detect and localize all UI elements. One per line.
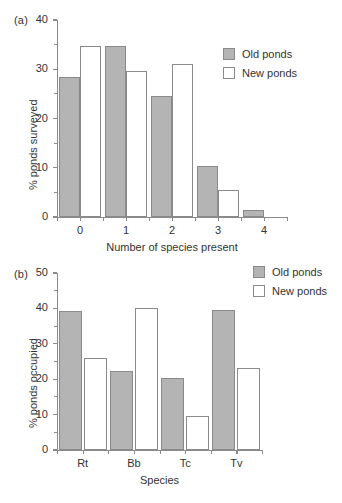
bar — [59, 77, 80, 217]
x-tick-label: Bb — [109, 457, 159, 469]
x-axis-title: Species — [50, 474, 270, 486]
legend-swatch-new-icon — [223, 67, 235, 79]
y-minor-tick — [54, 396, 57, 397]
x-tick — [241, 217, 242, 221]
legend-swatch-new-icon — [253, 285, 265, 297]
x-tick-label: 2 — [147, 224, 197, 236]
bar — [80, 46, 101, 217]
legend-label-old: Old ponds — [272, 266, 322, 278]
y-tick — [53, 118, 57, 119]
legend-item-new-ponds: New ponds — [253, 285, 327, 297]
legend-label-old: Old ponds — [242, 48, 292, 60]
x-tick — [160, 450, 161, 454]
x-tick — [83, 450, 84, 454]
x-tick — [211, 450, 212, 454]
x-tick-label: Tv — [211, 457, 261, 469]
bar — [237, 368, 260, 450]
x-tick — [80, 217, 81, 221]
legend-a: Old ponds New ponds — [223, 48, 297, 86]
x-tick — [108, 450, 109, 454]
legend-item-old-ponds: Old ponds — [223, 48, 297, 60]
legend-label-new: New ponds — [272, 285, 327, 297]
bar — [243, 210, 264, 217]
legend-label-new: New ponds — [242, 67, 297, 79]
y-axis-title: % ponds occupied — [27, 338, 39, 428]
y-minor-tick — [54, 143, 57, 144]
bar — [59, 311, 82, 450]
y-tick-label: 30 — [22, 62, 48, 74]
x-tick-label: 3 — [193, 224, 243, 236]
x-tick — [262, 450, 263, 454]
y-tick-label: 40 — [22, 301, 48, 313]
y-tick-label: 50 — [22, 266, 48, 278]
x-tick-label: 4 — [239, 224, 289, 236]
bar — [172, 64, 193, 217]
y-minor-tick — [54, 44, 57, 45]
legend-item-old-ponds: Old ponds — [253, 266, 327, 278]
y-minor-tick — [54, 192, 57, 193]
x-tick-label: Tc — [160, 457, 210, 469]
x-tick — [236, 450, 237, 454]
bar — [84, 358, 107, 450]
bar — [212, 310, 235, 450]
plot-area-b: 01020304050% ponds occupiedRtBbTcTvSpeci… — [57, 273, 262, 450]
chart-panel-b: (b) 01020304050% ponds occupiedRtBbTcTvS… — [0, 256, 342, 503]
x-tick — [149, 217, 150, 221]
x-tick — [103, 217, 104, 221]
y-tick — [53, 379, 57, 380]
x-tick — [134, 450, 135, 454]
legend-item-new-ponds: New ponds — [223, 67, 297, 79]
bar — [151, 96, 172, 217]
legend-swatch-old-icon — [253, 266, 265, 278]
x-tick-label: 1 — [101, 224, 151, 236]
bar — [218, 190, 239, 217]
legend-b: Old ponds New ponds — [253, 266, 327, 304]
y-tick — [53, 272, 57, 273]
y-axis-title: % ponds surveyed — [27, 100, 39, 191]
y-tick — [53, 167, 57, 168]
x-tick — [218, 217, 219, 221]
x-tick-label: Rt — [58, 457, 108, 469]
x-tick — [185, 450, 186, 454]
y-tick-label: 0 — [22, 443, 48, 455]
y-minor-tick — [54, 361, 57, 362]
y-tick — [53, 414, 57, 415]
x-tick — [57, 217, 58, 221]
bar — [105, 46, 126, 217]
x-tick — [264, 217, 265, 221]
bar — [126, 71, 147, 217]
y-minor-tick — [54, 290, 57, 291]
bar — [161, 378, 184, 450]
y-tick-label: 40 — [22, 13, 48, 25]
y-tick — [53, 69, 57, 70]
x-tick — [287, 217, 288, 221]
y-tick-label: 0 — [22, 210, 48, 222]
bar — [186, 416, 209, 450]
bar — [135, 308, 158, 450]
bar — [110, 371, 133, 450]
x-tick — [57, 450, 58, 454]
y-minor-tick — [54, 432, 57, 433]
bar — [197, 166, 218, 217]
x-axis-title: Number of species present — [62, 241, 282, 253]
y-tick — [53, 19, 57, 20]
y-minor-tick — [54, 326, 57, 327]
y-tick — [53, 308, 57, 309]
y-minor-tick — [54, 93, 57, 94]
x-tick-label: 0 — [55, 224, 105, 236]
x-tick — [172, 217, 173, 221]
x-tick — [195, 217, 196, 221]
x-tick — [126, 217, 127, 221]
y-tick — [53, 343, 57, 344]
chart-panel-a: (a) 010203040% ponds surveyed01234Number… — [0, 0, 342, 256]
legend-swatch-old-icon — [223, 48, 235, 60]
